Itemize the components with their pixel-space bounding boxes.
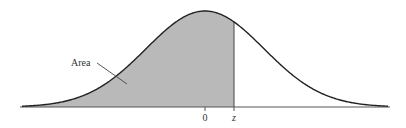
normal-distribution-diagram: Area 0 z xyxy=(0,0,406,128)
shaded-area-left-of-z xyxy=(22,11,234,107)
z-label: z xyxy=(231,112,236,123)
area-label: Area xyxy=(71,57,91,68)
mean-label: 0 xyxy=(203,112,208,123)
